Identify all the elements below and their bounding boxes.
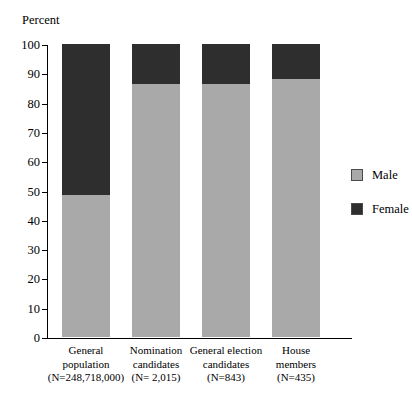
legend: MaleFemale xyxy=(351,158,411,226)
stacked-bar[interactable] xyxy=(202,44,250,337)
legend-swatch xyxy=(351,203,363,215)
y-tick-label: 70 xyxy=(28,127,41,140)
y-tick-label: 60 xyxy=(28,156,41,169)
x-axis-label-line: members xyxy=(242,358,350,372)
x-axis-label: Housemembers(N=435) xyxy=(242,344,350,385)
stacked-bar[interactable] xyxy=(132,44,180,337)
y-tick-label: 30 xyxy=(28,244,41,257)
y-tick-label: 50 xyxy=(28,185,41,198)
y-axis-title: Percent xyxy=(22,13,59,27)
legend-label: Female xyxy=(372,203,409,216)
y-tick-label: 40 xyxy=(28,215,41,228)
bar-segment-male[interactable] xyxy=(202,84,250,337)
y-tick-mark xyxy=(42,279,47,280)
y-tick-mark xyxy=(42,250,47,251)
y-tick-mark xyxy=(42,74,47,75)
stacked-bar[interactable] xyxy=(272,44,320,337)
y-tick-mark xyxy=(42,192,47,193)
bar-segment-female[interactable] xyxy=(132,44,180,84)
bar-segment-male[interactable] xyxy=(272,79,320,337)
bar-segment-male[interactable] xyxy=(132,84,180,337)
y-tick-label: 0 xyxy=(34,332,40,345)
legend-item[interactable]: Male xyxy=(351,158,411,192)
bar-segment-female[interactable] xyxy=(202,44,250,84)
y-tick-mark xyxy=(42,309,47,310)
legend-label: Male xyxy=(372,169,398,182)
bar-segment-male[interactable] xyxy=(62,195,110,337)
y-tick-mark xyxy=(42,104,47,105)
y-tick-mark xyxy=(42,221,47,222)
y-tick-mark xyxy=(42,338,47,339)
y-tick-label: 10 xyxy=(28,302,41,315)
bar-segment-female[interactable] xyxy=(62,44,110,195)
plot-area: 0102030405060708090100 xyxy=(47,45,352,338)
legend-item[interactable]: Female xyxy=(351,192,411,226)
bar-segment-female[interactable] xyxy=(272,44,320,79)
legend-swatch xyxy=(351,169,363,181)
stacked-bar-chart-figure: Percent 0102030405060708090100 Generalpo… xyxy=(0,0,412,400)
y-tick-label: 80 xyxy=(28,97,41,110)
x-axis-label-line: (N=435) xyxy=(242,371,350,385)
y-tick-label: 90 xyxy=(28,68,41,81)
y-tick-label: 100 xyxy=(21,39,40,52)
y-tick-mark xyxy=(42,133,47,134)
y-tick-mark xyxy=(42,45,47,46)
stacked-bar[interactable] xyxy=(62,44,110,337)
x-axis-line xyxy=(47,338,352,339)
y-axis-line xyxy=(47,45,48,338)
y-tick-label: 20 xyxy=(28,273,41,286)
x-axis-label-line: House xyxy=(242,344,350,358)
y-tick-mark xyxy=(42,162,47,163)
